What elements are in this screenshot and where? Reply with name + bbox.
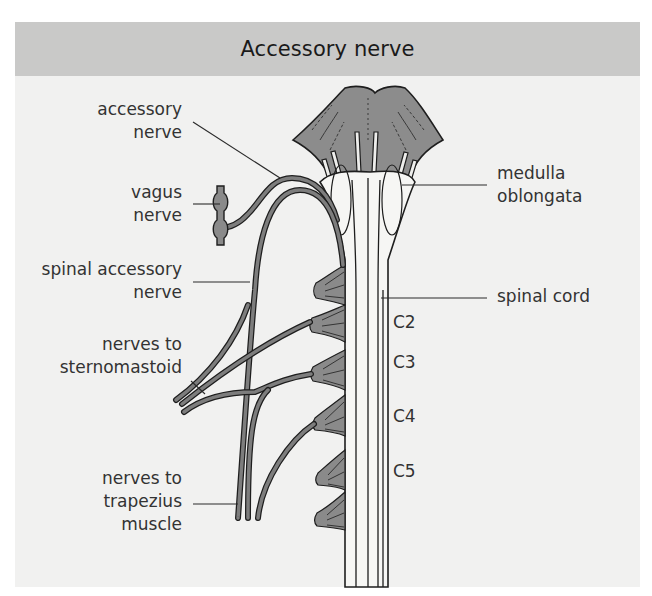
accessory-nerve-paths bbox=[176, 178, 343, 518]
segment-c3: C3 bbox=[393, 351, 416, 374]
label-line: medulla bbox=[497, 162, 582, 185]
label-spinal-cord: spinal cord bbox=[497, 285, 590, 308]
label-line: nerve bbox=[20, 204, 182, 227]
label-line: nerves to bbox=[20, 467, 182, 490]
label-accessory-nerve: accessory nerve bbox=[20, 98, 182, 144]
pons-shape bbox=[293, 86, 443, 178]
label-line: muscle bbox=[20, 513, 182, 536]
label-line: accessory bbox=[20, 98, 182, 121]
label-line: oblongata bbox=[497, 185, 582, 208]
label-line: spinal accessory bbox=[20, 258, 182, 281]
vagus-ganglia bbox=[213, 186, 228, 245]
label-line: nerve bbox=[20, 281, 182, 304]
label-line: trapezius bbox=[20, 490, 182, 513]
segment-c2: C2 bbox=[393, 311, 416, 334]
segment-c5: C5 bbox=[393, 460, 416, 483]
segment-c4: C4 bbox=[393, 405, 416, 428]
label-line: vagus bbox=[20, 181, 182, 204]
label-line: sternomastoid bbox=[20, 356, 182, 379]
label-nerves-to-sternomastoid: nerves to sternomastoid bbox=[20, 333, 182, 379]
label-line: nerve bbox=[20, 121, 182, 144]
label-line: nerves to bbox=[20, 333, 182, 356]
label-medulla-oblongata: medulla oblongata bbox=[497, 162, 582, 208]
label-spinal-accessory-nerve: spinal accessory nerve bbox=[20, 258, 182, 304]
label-vagus-nerve: vagus nerve bbox=[20, 181, 182, 227]
label-line: spinal cord bbox=[497, 285, 590, 308]
nerve-root-fans bbox=[310, 265, 345, 530]
label-nerves-to-trapezius: nerves to trapezius muscle bbox=[20, 467, 182, 536]
